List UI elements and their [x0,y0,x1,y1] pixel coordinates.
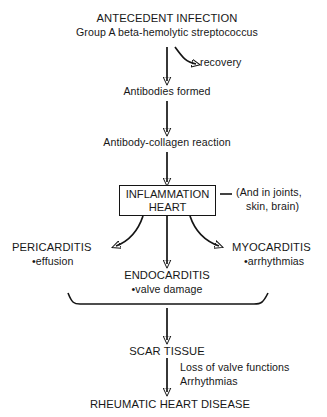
connector-inflammation-to-myocarditis [190,216,219,246]
node-pericarditis-detail: •effusion [32,256,74,267]
node-pericarditis-title: PERICARDITIS [12,241,92,253]
node-endocarditis-title: ENDOCARDITIS [124,269,210,281]
annotation-also-in-joints-line1: (And in joints, [236,187,302,198]
annotation-scar-effects-line2: Arrhythmias [180,376,238,387]
node-myocarditis-detail: •arrhythmias [244,256,304,267]
node-endocarditis-detail: •valve damage [132,284,203,295]
node-myocarditis-title: MYOCARDITIS [232,241,311,253]
node-inflammation-heart-box: INFLAMMATION HEART [119,185,216,216]
node-antibody-collagen-reaction: Antibody-collagen reaction [103,137,230,148]
annotation-also-in-joints-line2: skin, brain) [246,201,299,212]
rheumatic-heart-disease-flowchart: ANTECEDENT INFECTION Group A beta-hemoly… [0,0,327,417]
connector-infection-to-recovery [175,47,196,64]
annotation-scar-effects-line1: Loss of valve functions [180,362,289,373]
connector-inflammation-to-pericarditis [116,216,143,246]
node-inflammation-label: INFLAMMATION [120,188,215,201]
node-rheumatic-heart-disease: RHEUMATIC HEART DISEASE [90,398,250,410]
node-heart-label: HEART [120,201,215,214]
node-antibodies-formed: Antibodies formed [123,86,210,97]
node-scar-tissue: SCAR TISSUE [129,345,205,357]
node-antecedent-infection-title: ANTECEDENT INFECTION [96,12,237,24]
node-recovery: recovery [200,57,241,68]
node-antecedent-infection-subtitle: Group A beta-hemolytic streptococcus [76,27,258,38]
